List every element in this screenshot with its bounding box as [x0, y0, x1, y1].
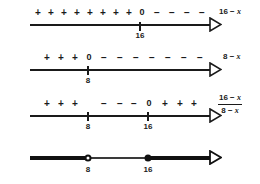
sign-plus: + — [44, 53, 50, 63]
sign-plus: + — [35, 8, 41, 18]
sign-plus: + — [44, 99, 50, 109]
sign-minus: − — [149, 53, 155, 63]
endpoint-open-circle — [85, 155, 92, 162]
expression-label-quotient: 16 − x 8 − x — [218, 93, 242, 116]
sign-plus: + — [177, 99, 183, 109]
fraction-denominator: 8 − x — [218, 106, 242, 116]
expression-label-8-minus-x: 8 − x — [223, 52, 241, 62]
axis-tick — [139, 22, 141, 31]
sign-plus: + — [191, 99, 197, 109]
axis-tick — [87, 66, 89, 75]
number-line-row-16-minus-x: + + + + + + + + 0 − − − − 16 16 − x — [0, 0, 260, 44]
sign-plus: + — [61, 8, 67, 18]
sign-plus: + — [126, 8, 132, 18]
sign-minus: − — [133, 53, 139, 63]
point-label: 8 — [86, 165, 90, 174]
number-line-row-solution: 8 16 — [0, 136, 260, 184]
tick-label: 8 — [86, 122, 90, 131]
sign-plus: + — [87, 8, 93, 18]
axis-line — [30, 24, 210, 26]
sign-minus: − — [169, 8, 175, 18]
sign-chart-figure: + + + + + + + + 0 − − − − 16 16 − x + + … — [0, 0, 260, 184]
sign-minus: − — [154, 8, 160, 18]
sign-plus: + — [72, 99, 78, 109]
sign-minus: − — [117, 53, 123, 63]
sign-minus: − — [101, 99, 107, 109]
sign-minus: − — [165, 53, 171, 63]
number-line-row-quotient: + + + − − − 0 + + + 8 16 16 − x 8 − x — [0, 89, 260, 136]
fraction-bar — [218, 104, 242, 105]
sign-minus: − — [184, 8, 190, 18]
tick-label: 16 — [144, 122, 153, 131]
axis-tick — [87, 112, 89, 121]
arrow-right-icon — [209, 150, 222, 165]
axis-tick — [147, 112, 149, 121]
zero-mark: 0 — [146, 99, 151, 108]
tick-label: 8 — [86, 76, 90, 85]
sign-plus: + — [100, 8, 106, 18]
endpoint-filled-dot — [145, 155, 152, 162]
point-label: 16 — [144, 165, 153, 174]
sign-plus: + — [72, 53, 78, 63]
sign-minus: − — [197, 53, 203, 63]
number-line-row-8-minus-x: + + + 0 − − − − − − − 8 8 − x — [0, 44, 260, 89]
sign-minus: − — [181, 53, 187, 63]
sign-plus: + — [74, 8, 80, 18]
axis-segment-middle — [88, 157, 148, 159]
axis-line — [30, 69, 210, 71]
sign-plus: + — [113, 8, 119, 18]
expression-label-16-minus-x: 16 − x — [219, 7, 241, 17]
zero-mark: 0 — [86, 53, 91, 62]
sign-plus: + — [48, 8, 54, 18]
tick-label: 16 — [136, 31, 145, 40]
axis-line — [30, 115, 210, 117]
sign-plus: + — [58, 99, 64, 109]
zero-mark: 0 — [139, 8, 144, 17]
sign-minus: − — [199, 8, 205, 18]
solution-segment-left — [30, 156, 88, 160]
sign-plus: + — [162, 99, 168, 109]
solution-segment-right — [148, 156, 210, 160]
sign-minus: − — [101, 53, 107, 63]
arrow-right-icon — [209, 17, 222, 32]
sign-plus: + — [58, 53, 64, 63]
arrow-right-icon — [209, 62, 222, 77]
fraction-numerator: 16 − x — [218, 93, 242, 103]
sign-minus: − — [117, 99, 123, 109]
sign-minus: − — [131, 99, 137, 109]
